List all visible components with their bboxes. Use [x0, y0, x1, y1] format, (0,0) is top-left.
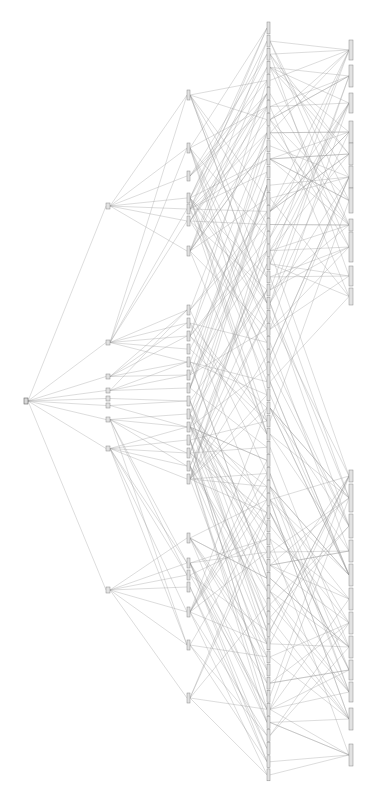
- graph-node-level-3: [267, 520, 270, 532]
- graph-node-level-3: [267, 35, 270, 47]
- graph-node-level-4: [349, 612, 353, 634]
- graph-node-level-2: [187, 383, 190, 393]
- graph-node-level-4: [349, 588, 353, 610]
- graph-node-level-3: [267, 625, 270, 637]
- graph-node-level-3: [267, 756, 270, 768]
- edge: [190, 440, 267, 696]
- edge: [270, 177, 349, 356]
- graph-node-level-3: [267, 743, 270, 755]
- edge: [190, 587, 267, 749]
- edge: [110, 420, 187, 646]
- graph-node-level-3: [267, 428, 270, 440]
- graph-node-level-2: [187, 216, 190, 226]
- graph-node-level-3: [267, 703, 270, 715]
- graph-node-level-3: [267, 166, 270, 178]
- graph-node-level-1: [106, 446, 110, 451]
- edge: [110, 590, 187, 645]
- graph-node-level-4: [349, 40, 353, 60]
- edge: [190, 148, 267, 369]
- graph-node-level-3: [267, 546, 270, 558]
- graph-node-level-2: [187, 357, 190, 367]
- edge: [190, 211, 267, 310]
- graph-svg: [0, 0, 374, 797]
- edge: [110, 95, 187, 206]
- edge: [270, 719, 349, 722]
- graph-node-level-4: [349, 143, 353, 165]
- edge: [110, 414, 187, 420]
- edge: [270, 476, 349, 644]
- graph-node-level-4: [349, 660, 353, 680]
- graph-node-level-2: [187, 693, 190, 703]
- edge: [110, 420, 187, 428]
- edge: [270, 591, 349, 692]
- edge: [110, 176, 187, 206]
- edge: [270, 599, 349, 709]
- edge: [190, 513, 267, 645]
- edge: [28, 401, 106, 406]
- edge: [270, 159, 349, 225]
- edge: [190, 356, 267, 479]
- graph-node-level-3: [267, 533, 270, 545]
- edge: [270, 146, 349, 177]
- edge: [110, 336, 187, 343]
- edge: [110, 198, 187, 206]
- graph-node-level-3: [267, 716, 270, 728]
- edge: [190, 251, 267, 336]
- graph-node-level-3: [267, 599, 270, 611]
- edge: [270, 342, 349, 551]
- edge: [270, 54, 349, 177]
- graph-node-level-2: [187, 409, 190, 419]
- graph-node-level-2: [187, 582, 190, 592]
- graph-node-level-3: [267, 140, 270, 152]
- graph-node-level-2: [187, 558, 190, 568]
- edge: [110, 449, 187, 454]
- graph-node-level-1: [106, 403, 110, 408]
- edge: [110, 310, 187, 343]
- edge: [270, 297, 349, 382]
- graph-node-level-3: [267, 730, 270, 742]
- edge: [110, 209, 187, 343]
- edge: [270, 500, 349, 599]
- edge: [270, 41, 349, 50]
- edge: [270, 50, 349, 54]
- edge: [190, 401, 267, 591]
- edge: [110, 323, 187, 343]
- edge: [190, 563, 267, 722]
- edge: [190, 251, 267, 375]
- graph-node-level-4: [349, 288, 353, 305]
- edge: [110, 343, 187, 363]
- edge: [270, 755, 349, 762]
- edge: [270, 618, 349, 719]
- graph-node-level-2: [187, 370, 190, 380]
- graph-node-level-1: [106, 388, 110, 393]
- edge: [190, 587, 267, 762]
- graph-node-level-4: [349, 188, 353, 213]
- edge: [190, 538, 267, 670]
- edge: [110, 420, 187, 564]
- edge: [270, 356, 349, 526]
- edge: [110, 401, 187, 406]
- graph-node-level-4: [349, 232, 353, 262]
- graph-node-level-2: [187, 461, 190, 471]
- edge: [270, 120, 349, 201]
- graph-node-level-2: [187, 533, 190, 543]
- graph-node-level-4: [349, 93, 353, 113]
- graph-node-level-3: [267, 769, 270, 781]
- edge: [190, 198, 267, 303]
- graph-node-level-3: [267, 101, 270, 113]
- edge: [270, 276, 349, 277]
- edge: [190, 54, 267, 176]
- edge: [190, 362, 267, 578]
- edge: [270, 67, 349, 132]
- graph-node-level-4: [349, 708, 353, 730]
- edge: [190, 159, 267, 209]
- edge: [28, 401, 106, 449]
- graph-node-level-3: [267, 494, 270, 506]
- edge: [270, 692, 349, 709]
- edge: [110, 336, 187, 377]
- edge: [270, 487, 349, 623]
- edge: [190, 172, 267, 209]
- graph-node-level-1: [106, 587, 110, 593]
- edge: [270, 133, 349, 225]
- graph-node-level-2: [187, 640, 190, 650]
